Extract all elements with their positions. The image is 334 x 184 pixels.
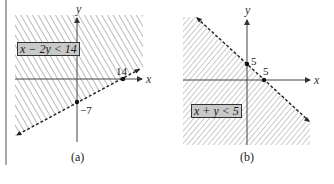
- x-intercept-label-b: 5: [263, 65, 269, 77]
- x-axis-label-a: x: [145, 72, 152, 86]
- inequality-label-a: x − 2y < 14: [17, 42, 80, 56]
- y-axis-label-b: y: [244, 3, 251, 17]
- y-axis-label-a: y: [75, 2, 82, 16]
- y-intercept-point-a: [75, 100, 79, 104]
- x-intercept-point-b: [262, 78, 266, 82]
- figure-canvas: y x 14 −7 (a) y x 5 5 (b): [0, 0, 334, 184]
- x-intercept-label-a: 14: [116, 65, 128, 77]
- caption-b: (b): [240, 150, 254, 164]
- y-intercept-label-b: 5: [251, 55, 257, 67]
- y-intercept-point-b: [245, 62, 249, 66]
- caption-a: (a): [71, 150, 84, 164]
- panel-b: [183, 17, 310, 145]
- y-intercept-label-a: −7: [80, 104, 92, 116]
- x-axis-label-b: x: [313, 73, 320, 87]
- x-intercept-point-a: [121, 77, 125, 81]
- inequality-label-b: x + y < 5: [191, 104, 242, 118]
- panel-a: [15, 15, 143, 142]
